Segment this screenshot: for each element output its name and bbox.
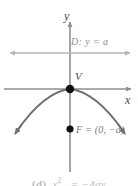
- figure-caption: (d)x2 = −4ay: [0, 176, 138, 186]
- parabola-figure: y x V D: y = a F = (0, −a) (d)x2 = −4ay: [0, 0, 138, 186]
- x-axis-label: x: [125, 94, 130, 106]
- vertex-label: V: [75, 71, 82, 82]
- focus-point: [66, 125, 73, 132]
- parabola-svg: [0, 0, 138, 186]
- caption-equation-rest: = −4ay: [71, 178, 106, 186]
- parabola-left-arrow: [15, 124, 22, 134]
- y-axis-label: y: [64, 10, 69, 22]
- vertex-point: [66, 85, 74, 93]
- focus-label: F = (0, −a): [76, 125, 124, 135]
- directrix-label: D: y = a: [71, 37, 108, 47]
- caption-tag: (d): [32, 178, 46, 186]
- caption-equation-exponent: 2: [58, 176, 62, 185]
